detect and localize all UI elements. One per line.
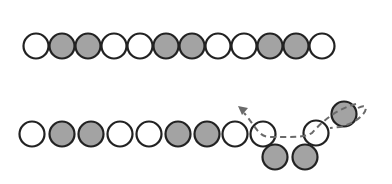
bottom-row-bead-12-white — [304, 121, 329, 146]
bottom-row-bead-8-white — [223, 122, 248, 147]
bottom-row-bead-10-gray — [263, 145, 288, 170]
bead-chain-diagram — [0, 0, 392, 184]
top-row-bead-6-gray — [154, 34, 179, 59]
top-row-bead-12-white — [310, 34, 335, 59]
top-row-bead-7-gray — [180, 34, 205, 59]
bottom-row-bead-7-gray — [195, 122, 220, 147]
bottom-row-bead-3-gray — [79, 122, 104, 147]
top-row-bead-4-white — [102, 34, 127, 59]
bottom-row-bead-11-gray — [293, 145, 318, 170]
top-row-bead-1-white — [24, 34, 49, 59]
arrowhead-icon — [238, 106, 248, 115]
bottom-row-bead-5-white — [137, 122, 162, 147]
bottom-row-bead-6-gray — [166, 122, 191, 147]
bottom-row-bead-1-white — [20, 122, 45, 147]
top-row-bead-11-gray — [284, 34, 309, 59]
top-row-bead-5-white — [128, 34, 153, 59]
top-row-bead-2-gray — [50, 34, 75, 59]
top-row-bead-10-gray — [258, 34, 283, 59]
top-row-bead-8-white — [206, 34, 231, 59]
top-row-bead-9-white — [232, 34, 257, 59]
bottom-row-bead-2-gray — [50, 122, 75, 147]
top-row-bead-3-gray — [76, 34, 101, 59]
top-bead-row — [24, 34, 335, 59]
bottom-row-bead-4-white — [108, 122, 133, 147]
bottom-row-bead-9-white — [251, 122, 276, 147]
